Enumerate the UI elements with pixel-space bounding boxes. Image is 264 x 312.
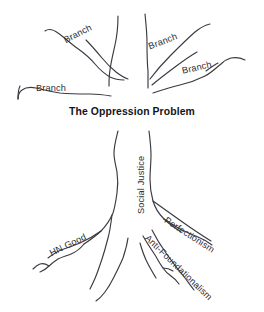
- branch-stroke-mid-right: [153, 58, 245, 93]
- branch-stroke-upper-right: [150, 24, 210, 79]
- tree-drawing: [0, 0, 264, 312]
- root-stroke-perfectionism: [153, 201, 211, 241]
- root-stroke-anti-foundationalism-lower: [143, 236, 179, 284]
- tree-diagram-canvas: The Oppression Problem Branch Branch Bra…: [0, 0, 264, 312]
- crown-stroke-right: [145, 14, 148, 88]
- trunk-stroke-left: [84, 131, 118, 244]
- root-stroke-center-right: [140, 243, 156, 278]
- root-stroke-hn-good: [48, 231, 101, 258]
- diagram-title: The Oppression Problem: [0, 106, 264, 117]
- branch-stroke-upper-left-inner: [86, 40, 128, 79]
- root-stroke-hn-good-lower: [40, 244, 84, 272]
- root-stroke-center-left: [90, 215, 112, 289]
- branch-stroke-upper-left: [45, 30, 124, 80]
- trunk-stroke-right: [149, 131, 181, 232]
- root-stroke-perfectionism-lower: [164, 219, 212, 245]
- branch-stroke-mid-right-kink: [206, 63, 218, 71]
- root-stroke-center: [96, 238, 128, 301]
- branch-stroke-left: [18, 87, 111, 99]
- crown-stroke-left: [109, 16, 118, 86]
